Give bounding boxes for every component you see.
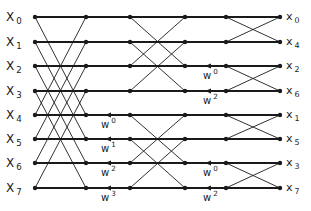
twiddle-arrows xyxy=(105,64,211,191)
node-dot xyxy=(84,186,88,190)
arrow-left-icon xyxy=(105,186,111,191)
output-label: x0 xyxy=(286,10,300,25)
node-dot xyxy=(224,113,228,117)
node-dot xyxy=(84,40,88,44)
output-label: x1 xyxy=(286,108,300,123)
twiddle-label: w0 xyxy=(203,164,218,178)
node-dot xyxy=(183,137,187,141)
node-dot xyxy=(278,15,282,19)
node-dot xyxy=(183,15,187,19)
input-label: X0 xyxy=(6,10,22,26)
node-dot xyxy=(128,161,132,165)
node-dot xyxy=(33,161,37,165)
twiddle-label: w2 xyxy=(203,92,218,106)
arrow-left-icon xyxy=(205,64,211,69)
node-dot xyxy=(33,15,37,19)
twiddle-label: w3 xyxy=(101,189,116,203)
node-dot xyxy=(278,89,282,93)
node-dot xyxy=(33,113,37,117)
output-label: x3 xyxy=(286,156,300,171)
node-dot xyxy=(224,40,228,44)
node-dot xyxy=(183,113,187,117)
node-dot xyxy=(84,64,88,68)
node-dot xyxy=(278,186,282,190)
node-dot xyxy=(183,186,187,190)
input-label: X4 xyxy=(6,108,22,124)
output-label: x5 xyxy=(286,132,300,147)
twiddle-label: w2 xyxy=(203,189,218,203)
node-dot xyxy=(278,40,282,44)
input-label: X3 xyxy=(6,84,22,100)
node-dot xyxy=(33,186,37,190)
arrow-left-icon xyxy=(105,137,111,142)
arrow-left-icon xyxy=(205,186,211,191)
output-label: x4 xyxy=(286,35,300,50)
node-dot xyxy=(224,64,228,68)
node-dot xyxy=(128,40,132,44)
node-dot xyxy=(224,89,228,93)
node-dot xyxy=(84,137,88,141)
output-label: x2 xyxy=(286,59,300,74)
node-dot xyxy=(224,137,228,141)
arrow-left-icon xyxy=(205,89,211,94)
arrow-left-icon xyxy=(105,113,111,118)
node-dot xyxy=(224,161,228,165)
node-dot xyxy=(183,40,187,44)
node-dot xyxy=(128,137,132,141)
input-label: X5 xyxy=(6,132,22,148)
input-label: X1 xyxy=(6,35,22,51)
node-dot xyxy=(128,89,132,93)
input-label: X7 xyxy=(6,181,22,197)
fft-butterfly-diagram: X0X1X2X3X4X5X6X7x0x4x2x6x1x5x3x7w0w1w2w3… xyxy=(0,0,311,211)
node-dot xyxy=(278,161,282,165)
node-dot xyxy=(33,137,37,141)
input-label: X2 xyxy=(6,59,22,75)
output-label: x7 xyxy=(286,181,300,196)
twiddle-label: w2 xyxy=(101,164,116,178)
twiddle-label: w0 xyxy=(101,116,116,130)
twiddle-label: w1 xyxy=(101,140,116,154)
node-dot xyxy=(278,113,282,117)
node-dot xyxy=(278,64,282,68)
node-dot xyxy=(183,161,187,165)
node-dot xyxy=(224,15,228,19)
node-dot xyxy=(128,113,132,117)
signal-lines xyxy=(35,17,280,188)
node-dot xyxy=(84,113,88,117)
twiddle-label: w0 xyxy=(203,67,218,81)
arrow-left-icon xyxy=(205,161,211,166)
node-dot xyxy=(278,137,282,141)
node-dot xyxy=(128,186,132,190)
node-dot xyxy=(183,64,187,68)
node-dot xyxy=(33,40,37,44)
node-dot xyxy=(33,89,37,93)
output-label: x6 xyxy=(286,84,300,99)
arrow-left-icon xyxy=(105,161,111,166)
node-dot xyxy=(84,15,88,19)
node-dot xyxy=(33,64,37,68)
node-dot xyxy=(224,186,228,190)
node-dot xyxy=(128,64,132,68)
node-dot xyxy=(183,89,187,93)
node-dot xyxy=(84,161,88,165)
input-label: X6 xyxy=(6,156,22,172)
node-dot xyxy=(84,89,88,93)
node-dot xyxy=(128,15,132,19)
